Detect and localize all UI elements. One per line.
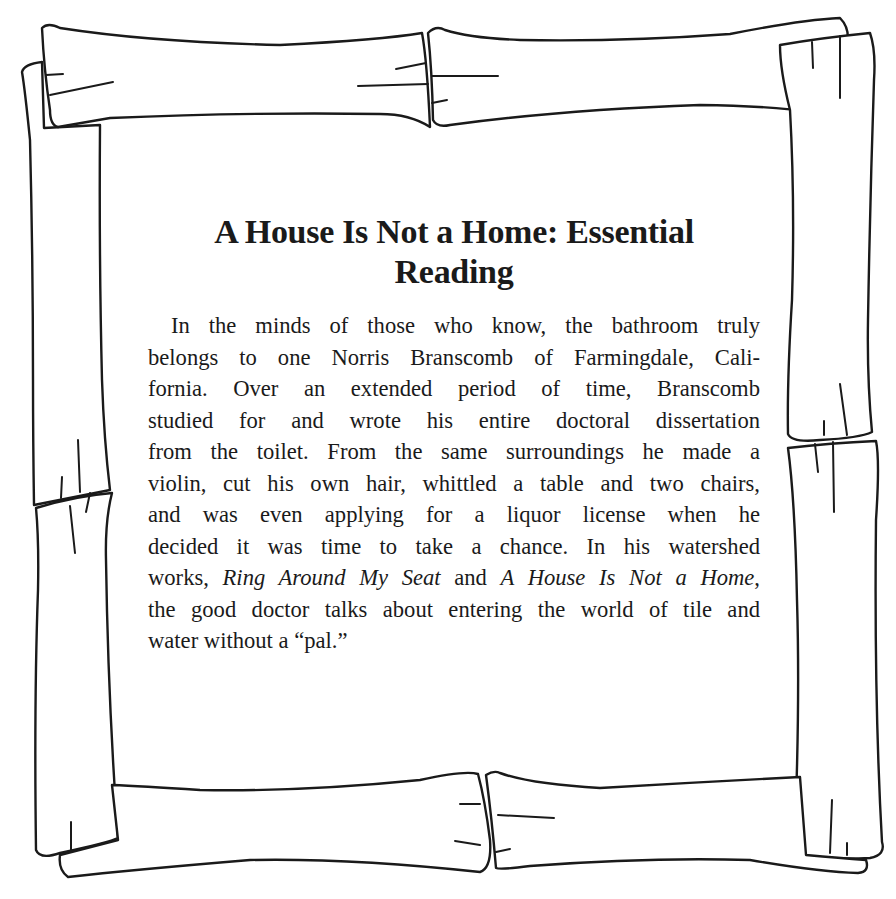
top-left-bar [42, 25, 430, 127]
book-title-a-house-is-not-a-home: A House Is Not a Home [501, 565, 755, 590]
body-line: the good doctor talks about entering the… [148, 594, 760, 626]
left-upper-post [22, 62, 110, 505]
body-line: fornia. Over an extended period of time,… [148, 373, 760, 405]
body-line: from the toilet. From the same surroundi… [148, 436, 760, 468]
left-lower-post [35, 493, 118, 856]
body-line: belongs to one Norris Branscomb of Farmi… [148, 342, 760, 374]
right-upper-post [780, 33, 875, 441]
article: A House Is Not a Home: Essential Reading… [148, 212, 760, 657]
works-joiner: and [441, 565, 501, 590]
body-line-works: works, Ring Around My Seat and A House I… [148, 562, 760, 594]
body-line: and was even applying for a liquor licen… [148, 499, 760, 531]
body-line: decided it was time to take a chance. In… [148, 531, 760, 563]
bottom-left-bar [60, 773, 491, 877]
article-title-line-1: A House Is Not a Home: Essential [214, 213, 694, 250]
book-title-ring-around-my-seat: Ring Around My Seat [223, 565, 441, 590]
article-body: In the minds of those who know, the bath… [148, 310, 760, 657]
body-line: In the minds of those who know, the bath… [148, 310, 760, 342]
works-suffix: , [754, 565, 760, 590]
body-line: water without a “pal.” [148, 625, 760, 657]
article-title: A House Is Not a Home: Essential Reading [148, 212, 760, 292]
body-line: studied for and wrote his entire doctora… [148, 405, 760, 437]
body-line: violin, cut his own hair, whittled a tab… [148, 468, 760, 500]
article-title-line-2: Reading [395, 253, 514, 290]
works-prefix: works, [148, 565, 223, 590]
